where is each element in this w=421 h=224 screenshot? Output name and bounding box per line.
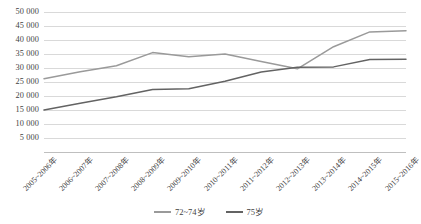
x-tick-label: 2015~2016年 (384, 156, 421, 193)
chart-legend: 72~74岁75岁 (0, 203, 418, 221)
y-tick-label: 35 000 (16, 50, 39, 58)
y-tick-label: 10 000 (16, 120, 39, 128)
x-tick-label: 2013~2014年 (311, 156, 348, 193)
series-layer (44, 12, 406, 152)
y-tick-label: 20 000 (16, 92, 39, 100)
y-tick-label: 40 000 (16, 36, 39, 44)
x-tick-label: 2006~2007年 (58, 156, 95, 193)
y-axis: 5 00010 00015 00020 00025 00030 00035 00… (0, 0, 42, 158)
x-tick-label: 2014~2015年 (347, 156, 384, 193)
y-tick-label: 5 000 (20, 134, 39, 142)
legend-swatch-icon (226, 211, 243, 213)
series-line-1 (44, 31, 406, 79)
y-tick-label: 25 000 (16, 78, 39, 86)
legend-swatch-icon (154, 211, 171, 213)
series-line-2 (44, 59, 406, 110)
legend-item-2[interactable]: 75岁 (226, 208, 265, 217)
x-tick-label: 2012~2013年 (275, 156, 312, 193)
x-tick-label: 2007~2008年 (94, 156, 131, 193)
x-tick-label: 2010~2011年 (203, 156, 240, 193)
y-tick-label: 45 000 (16, 22, 39, 30)
legend-item-1[interactable]: 72~74岁 (154, 208, 206, 217)
x-axis-line (44, 152, 406, 153)
plot-area (44, 12, 406, 152)
x-tick-label: 2005~2006年 (22, 156, 59, 193)
legend-label: 75岁 (247, 208, 265, 217)
x-tick-label: 2011~2012年 (239, 156, 276, 193)
x-tick-label: 2009~2010年 (166, 156, 203, 193)
x-axis: 2005~2006年2006~2007年2007~2008年2008~2009年… (44, 154, 406, 202)
y-tick-label: 50 000 (16, 8, 39, 16)
x-tick-label: 2008~2009年 (130, 156, 167, 193)
y-tick-label: 30 000 (16, 64, 39, 72)
legend-label: 72~74岁 (175, 208, 206, 217)
y-tick-label: 15 000 (16, 106, 39, 114)
